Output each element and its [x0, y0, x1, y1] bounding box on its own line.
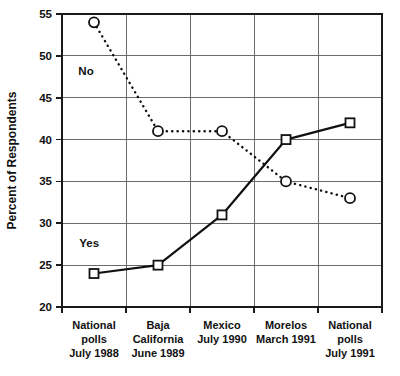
- ytick-label-30: 30: [39, 217, 52, 229]
- x-category-line: July 1988: [69, 347, 119, 359]
- series-no: [89, 17, 355, 203]
- plot-frame: [62, 14, 382, 307]
- ytick-label-35: 35: [39, 175, 52, 187]
- y-axis-title: Percent of Respondents: [5, 91, 19, 229]
- x-category-line: March 1991: [256, 333, 316, 345]
- horizontal-gridlines: [62, 56, 382, 265]
- x-category-label-0: NationalpollsJuly 1988: [69, 319, 119, 359]
- x-category-line: National: [328, 319, 371, 331]
- x-category-line: July 1990: [197, 333, 247, 345]
- x-category-line: Baja: [146, 319, 170, 331]
- chart-container: 2025303540455055 NationalpollsJuly 1988B…: [0, 0, 400, 376]
- x-category-line: June 1989: [131, 347, 184, 359]
- datapoint-no-3: [281, 176, 291, 186]
- data-series-layer: [89, 17, 355, 278]
- x-category-line: July 1991: [325, 347, 375, 359]
- x-category-label-4: NationalpollsJuly 1991: [325, 319, 375, 359]
- datapoint-yes-4: [346, 118, 355, 127]
- series-annotation-no: No: [78, 65, 93, 77]
- axis-tick-marks: [56, 14, 382, 313]
- series-annotations: NoYes: [78, 65, 99, 249]
- series-line-yes: [94, 123, 350, 274]
- ytick-label-40: 40: [39, 134, 52, 146]
- x-category-line: Morelos: [265, 319, 307, 331]
- datapoint-yes-2: [218, 210, 227, 219]
- ytick-label-45: 45: [39, 92, 52, 104]
- y-axis-tick-labels: 2025303540455055: [39, 8, 52, 313]
- ytick-label-25: 25: [39, 259, 52, 271]
- x-category-line: National: [72, 319, 115, 331]
- x-axis-category-labels: NationalpollsJuly 1988BajaCaliforniaJune…: [69, 319, 375, 359]
- ytick-label-20: 20: [39, 301, 52, 313]
- x-category-line: polls: [81, 333, 107, 345]
- series-annotation-yes: Yes: [79, 237, 99, 249]
- series-line-no: [94, 22, 350, 198]
- ytick-label-55: 55: [39, 8, 52, 20]
- x-category-line: California: [133, 333, 185, 345]
- x-category-line: Mexico: [203, 319, 241, 331]
- ytick-label-50: 50: [39, 50, 52, 62]
- x-category-label-3: MorelosMarch 1991: [256, 319, 316, 345]
- datapoint-no-1: [153, 126, 163, 136]
- datapoint-no-2: [217, 126, 227, 136]
- respondents-line-chart: 2025303540455055 NationalpollsJuly 1988B…: [0, 0, 400, 376]
- datapoint-yes-0: [90, 269, 99, 278]
- datapoint-yes-3: [282, 135, 291, 144]
- series-yes: [90, 118, 355, 278]
- datapoint-yes-1: [154, 261, 163, 270]
- x-category-label-2: MexicoJuly 1990: [197, 319, 247, 345]
- x-category-label-1: BajaCaliforniaJune 1989: [131, 319, 184, 359]
- x-category-line: polls: [337, 333, 363, 345]
- datapoint-no-0: [89, 17, 99, 27]
- datapoint-no-4: [345, 193, 355, 203]
